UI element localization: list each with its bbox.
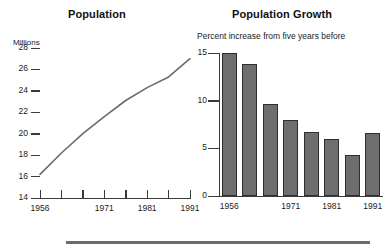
y-tick-label: 5 (195, 142, 207, 152)
x-tick-label: 1991 (357, 201, 389, 211)
x-axis-line (219, 196, 383, 197)
bar (324, 139, 339, 196)
x-tick-label: 1971 (88, 203, 120, 213)
x-tick-mark (82, 190, 83, 199)
y-tick-mark (208, 148, 219, 149)
bar (365, 133, 380, 196)
x-tick-label: 1971 (275, 201, 307, 211)
bar (222, 53, 237, 196)
y-tick-label: 14 (8, 192, 28, 202)
x-tick-mark (40, 190, 41, 199)
x-tick-mark (168, 190, 169, 199)
y-tick-mark (31, 69, 40, 70)
y-tick-label: 0 (195, 190, 207, 200)
population-line-chart-panel: Population Millions 1416182022242628 195… (0, 0, 195, 250)
y-tick-label: 22 (8, 106, 28, 116)
y-tick-label: 20 (8, 128, 28, 138)
chart-subtitle: Percent increase from five years before (197, 31, 345, 41)
bar (345, 155, 360, 196)
line-path (40, 59, 190, 175)
y-tick-mark (31, 133, 40, 134)
bar (263, 104, 278, 196)
y-tick-mark (31, 48, 40, 49)
y-tick-label: 26 (8, 63, 28, 73)
x-tick-label: 1981 (316, 201, 348, 211)
y-tick-label: 10 (195, 95, 207, 105)
y-tick-mark (208, 196, 219, 197)
y-tick-label: 18 (8, 149, 28, 159)
x-tick-mark (125, 190, 126, 199)
y-tick-mark (31, 90, 40, 91)
y-tick-mark (208, 53, 219, 54)
y-tick-label: 28 (8, 42, 28, 52)
bar (304, 132, 319, 196)
x-tick-mark (61, 190, 62, 199)
y-tick-mark (31, 176, 40, 177)
population-growth-bar-chart-panel: Population Growth Percent increase from … (195, 0, 390, 250)
y-tick-label: 15 (195, 47, 207, 57)
y-tick-mark (208, 100, 219, 101)
x-tick-mark (104, 190, 105, 199)
x-tick-mark (190, 190, 191, 199)
y-tick-label: 16 (8, 171, 28, 181)
page-title-population-growth: Population Growth (232, 8, 332, 20)
y-tick-mark (31, 155, 40, 156)
x-tick-label: 1981 (131, 203, 163, 213)
y-tick-mark (31, 112, 40, 113)
footer-rule (66, 241, 370, 244)
bar (283, 120, 298, 196)
x-tick-label: 1956 (24, 203, 56, 213)
bar (242, 64, 257, 196)
y-tick-label: 24 (8, 85, 28, 95)
x-tick-mark (147, 190, 148, 199)
y-axis-line (219, 53, 220, 196)
x-tick-label: 1956 (213, 201, 245, 211)
